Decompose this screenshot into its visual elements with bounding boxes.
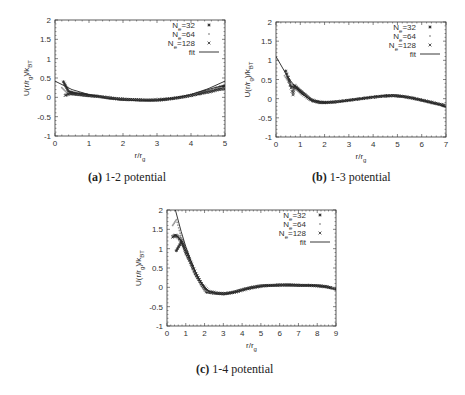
legend-label: fit <box>189 48 196 57</box>
legend: Ne=32Ne=64Ne=128fit <box>279 211 330 247</box>
y-tick-label: 0.5 <box>40 74 52 83</box>
x-tick-label: 3 <box>347 140 352 149</box>
caption-c: (c) 1-4 potential <box>196 362 273 377</box>
plot-c: 0123456789-1-0.500.511.52r/rgU(r/rg)/kBT… <box>134 206 339 352</box>
legend-label: fit <box>300 238 307 247</box>
caption-b-text: 1-3 potential <box>330 170 391 184</box>
x-tick-label: 0 <box>274 140 279 149</box>
x-tick-label: 4 <box>189 139 194 148</box>
x-tick-label: 6 <box>419 140 424 149</box>
legend-label: fit <box>410 50 417 59</box>
y-tick-label: -0.5 <box>37 113 51 122</box>
y-tick-label: 1 <box>268 56 273 65</box>
caption-a-text: 1-2 potential <box>105 170 166 184</box>
dot-marker <box>284 75 286 77</box>
x-tick-label: 6 <box>277 329 282 338</box>
data-layer <box>55 80 227 102</box>
caption-a: (a) 1-2 potential <box>88 170 166 185</box>
x-tick-label: 1 <box>298 140 303 149</box>
dot-marker <box>178 227 180 229</box>
y-axis-label: U(r/rg)/kBT <box>134 250 145 286</box>
x-tick-label: 2 <box>322 140 327 149</box>
y-tick-label: 2 <box>159 206 164 215</box>
y-tick-label: 0 <box>159 283 164 292</box>
star-marker <box>207 23 210 26</box>
plot-frame <box>276 22 446 137</box>
legend: Ne=32Ne=64Ne=128fit <box>168 21 219 57</box>
caption-b: (b) 1-3 potential <box>312 170 391 185</box>
cross-marker <box>319 232 322 235</box>
dot-marker <box>177 224 179 226</box>
x-axis-label: r/rg <box>356 152 367 163</box>
plot-a: 012345-1-0.500.511.52r/rgU(r/rg)/kBTNe=3… <box>22 16 228 162</box>
x-tick-label: 2 <box>121 139 126 148</box>
star-marker <box>318 213 321 216</box>
y-tick-label: 2 <box>268 18 273 27</box>
x-tick-label: 0 <box>165 329 170 338</box>
dot-marker <box>176 221 178 223</box>
cross-marker <box>208 42 211 45</box>
x-axis-label: r/rg <box>246 341 257 352</box>
y-tick-label: 1.5 <box>261 37 273 46</box>
dot-marker <box>178 230 180 232</box>
x-tick-label: 4 <box>240 329 245 338</box>
figure-canvas: 012345-1-0.500.511.52r/rgU(r/rg)/kBTNe=3… <box>0 0 465 395</box>
x-tick-label: 1 <box>87 139 92 148</box>
x-tick-label: 7 <box>444 140 449 149</box>
caption-c-letter: (c) <box>196 362 209 376</box>
data-layer <box>171 210 337 296</box>
star-marker <box>428 25 431 28</box>
dot-marker <box>429 35 431 37</box>
y-axis-label: U(r/rg)/kBT <box>22 60 33 96</box>
x-tick-label: 5 <box>223 139 228 148</box>
dot-marker <box>175 219 177 221</box>
legend: Ne=32Ne=64Ne=128fit <box>389 23 440 59</box>
x-tick-label: 0 <box>53 139 58 148</box>
fit-line <box>55 81 225 101</box>
y-tick-label: -1 <box>44 132 52 141</box>
y-tick-label: 0 <box>268 95 273 104</box>
x-axis-label: r/rg <box>135 151 146 162</box>
x-tick-label: 2 <box>202 329 207 338</box>
x-tick-label: 5 <box>259 329 264 338</box>
x-tick-label: 7 <box>296 329 301 338</box>
x-tick-label: 3 <box>221 329 226 338</box>
x-tick-label: 5 <box>395 140 400 149</box>
dot-marker <box>179 232 181 234</box>
x-tick-label: 1 <box>184 329 189 338</box>
star-marker <box>223 84 226 87</box>
x-tick-label: 9 <box>334 329 339 338</box>
y-tick-label: -0.5 <box>258 114 272 123</box>
y-tick-label: -1 <box>156 322 164 331</box>
y-tick-label: 1.5 <box>152 225 164 234</box>
dot-marker <box>285 76 287 78</box>
y-tick-label: 1.5 <box>40 35 52 44</box>
dot-marker <box>319 223 321 225</box>
plot-b: 01234567-1-0.500.511.52r/rgU(r/rg)/kBTNe… <box>243 18 449 163</box>
y-tick-label: -0.5 <box>149 303 163 312</box>
x-tick-label: 3 <box>155 139 160 148</box>
caption-b-letter: (b) <box>312 170 327 184</box>
caption-a-letter: (a) <box>88 170 102 184</box>
y-tick-label: 2 <box>47 16 52 25</box>
y-tick-label: 0.5 <box>152 264 164 273</box>
y-tick-label: 1 <box>47 55 52 64</box>
y-tick-label: 0.5 <box>261 76 273 85</box>
dot-marker <box>208 33 210 35</box>
y-axis-label: U(r/rg)/kBT <box>243 61 254 97</box>
y-tick-label: -1 <box>265 133 273 142</box>
dot-marker <box>180 235 182 237</box>
x-tick-label: 4 <box>371 140 376 149</box>
y-tick-label: 1 <box>159 245 164 254</box>
caption-c-text: 1-4 potential <box>212 362 273 376</box>
x-tick-label: 8 <box>315 329 320 338</box>
plot-frame <box>55 20 225 136</box>
y-tick-label: 0 <box>47 93 52 102</box>
data-layer <box>276 57 448 108</box>
cross-marker <box>429 44 432 47</box>
